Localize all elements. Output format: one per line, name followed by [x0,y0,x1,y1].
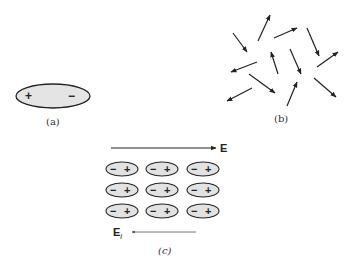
svg-text:−: − [150,184,156,196]
dipole-arrow [287,82,297,106]
svg-text:−: − [150,163,156,175]
applied-field-label: E [220,142,227,154]
svg-text:+: + [164,184,170,196]
svg-text:+: + [164,163,170,175]
svg-text:−: − [191,205,197,217]
svg-text:+: + [124,163,130,175]
svg-text:−: − [150,205,156,217]
dipole-arrow [271,52,278,74]
panel-a: + − (a) [16,84,90,127]
dipole-arrow [290,49,301,74]
svg-text:−: − [110,184,116,196]
dipole-arrow [314,78,336,97]
plus-sign: + [25,89,32,103]
aligned-dipole: − + [146,162,178,176]
induced-field-label: Ei [113,226,122,241]
dipole-arrow [233,33,247,52]
svg-text:+: + [205,205,211,217]
dipole-arrow [317,52,338,67]
svg-text:+: + [205,184,211,196]
dipole-arrow [274,28,297,38]
aligned-dipole: − + [106,204,138,218]
panel-b-label: (b) [274,113,288,124]
svg-text:+: + [164,205,170,217]
svg-text:−: − [110,205,116,217]
dipole-arrow [258,15,270,41]
induced-field-subscript: i [120,232,122,241]
panel-c-label: (c) [158,245,172,256]
dipole-arrow [249,74,275,93]
aligned-dipole: − + [106,183,138,197]
panel-a-label: (a) [46,116,60,127]
aligned-dipole: − + [187,183,219,197]
dipole-grid: − + − + − + − + − + [106,162,219,218]
svg-text:+: + [124,184,130,196]
aligned-dipole: − + [187,162,219,176]
aligned-dipole: − + [146,204,178,218]
panel-c: E − + − + − + − + [106,142,227,256]
minus-sign: − [68,89,75,103]
svg-text:+: + [124,205,130,217]
dipole-arrow [307,28,319,56]
aligned-dipole: − + [146,183,178,197]
svg-text:−: − [191,163,197,175]
dielectric-polarization-diagram: + − (a) (b) E − + − [0,0,351,269]
svg-text:+: + [205,163,211,175]
dipole-arrow [231,62,257,72]
panel-b: (b) [227,15,338,124]
svg-text:−: − [110,163,116,175]
aligned-dipole: − + [106,162,138,176]
aligned-dipole: − + [187,204,219,218]
dipole-arrow [227,88,252,101]
svg-text:−: − [191,184,197,196]
